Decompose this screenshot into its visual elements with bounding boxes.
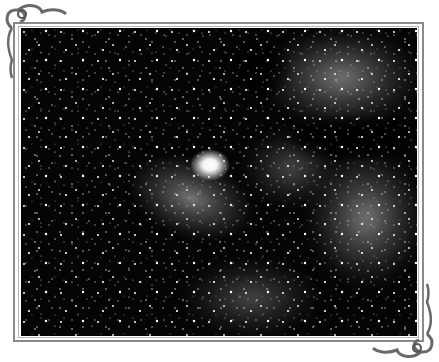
comet-photograph xyxy=(21,28,417,336)
scroll-flourish-icon xyxy=(369,282,439,362)
star-field xyxy=(21,28,417,336)
comet-nucleus xyxy=(190,149,230,181)
scroll-flourish-icon xyxy=(0,0,70,80)
